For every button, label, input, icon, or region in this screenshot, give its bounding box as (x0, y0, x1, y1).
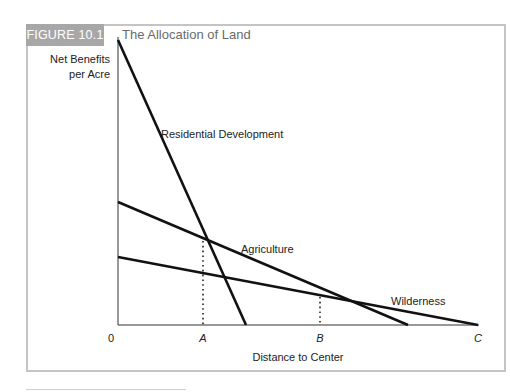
wilderness-line (118, 257, 478, 325)
wilderness-label: Wilderness (391, 295, 446, 307)
x-axis-label: Distance to Center (252, 351, 343, 363)
residential-development-label: Residential Development (161, 128, 283, 140)
x-tick-b: B (316, 332, 323, 344)
x-tick-c: C (474, 332, 482, 344)
agriculture-label: Agriculture (241, 243, 294, 255)
chart-plot: Net Benefits per Acre Residential Develo… (0, 0, 510, 392)
x-tick-0: 0 (108, 332, 114, 344)
bottom-rule (26, 389, 186, 390)
residential-development-line (118, 40, 246, 325)
y-axis-label-line1: Net Benefits (50, 53, 110, 65)
x-tick-a: A (198, 332, 206, 344)
y-axis-label-line2: per Acre (69, 68, 110, 80)
agriculture-line (118, 202, 408, 325)
